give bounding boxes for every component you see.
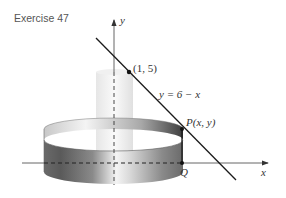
inner-cylinder [96,69,133,164]
y-axis-label: y [119,14,125,26]
point-p [180,127,184,131]
equation-label: y = 6 − x [158,88,200,100]
point-q [180,161,184,165]
point-1-5-label: (1, 5) [133,62,157,75]
point-q-label: Q [180,166,188,178]
figure: y x (1, 5) y = 6 − x P(x, y) Q [0,0,286,198]
cylindrical-shell [44,118,183,184]
x-axis-label: x [260,166,266,178]
point-1-5 [127,70,131,74]
point-p-label: P(x, y) [185,116,216,129]
